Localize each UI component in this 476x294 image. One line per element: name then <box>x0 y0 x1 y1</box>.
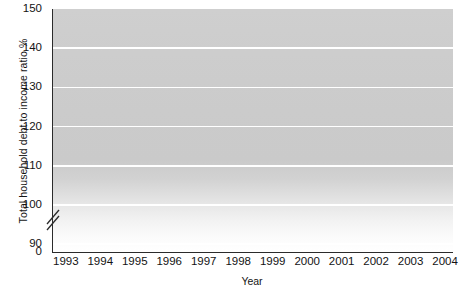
x-tick-label: 2001 <box>329 256 355 268</box>
gridline <box>53 243 453 245</box>
y-axis-tick-labels: 150140130120110100900 <box>4 0 42 294</box>
y-tick-label: 150 <box>8 3 42 15</box>
y-tick-label: 0 <box>8 246 42 258</box>
x-axis-tick-labels: 1993199419951996199719981999200020012002… <box>52 256 452 274</box>
y-tick-label: 110 <box>8 160 42 172</box>
gridline <box>53 126 453 128</box>
x-tick-label: 2000 <box>294 256 320 268</box>
x-tick-label: 2002 <box>363 256 389 268</box>
x-tick-label: 1995 <box>122 256 148 268</box>
plot-background <box>53 9 453 252</box>
y-tick-label: 100 <box>8 199 42 211</box>
x-tick-label: 1993 <box>53 256 79 268</box>
x-tick-label: 2004 <box>432 256 458 268</box>
x-tick-label: 1998 <box>225 256 251 268</box>
y-axis-break-icon <box>44 207 64 233</box>
gridline <box>53 87 453 89</box>
gridline <box>53 165 453 167</box>
x-axis-title: Year <box>52 275 452 287</box>
x-tick-label: 1996 <box>156 256 182 268</box>
chart-figure: Total household debt to income ratio % 1… <box>0 0 476 294</box>
y-tick-label: 130 <box>8 81 42 93</box>
gridline <box>53 47 453 49</box>
gridline <box>53 204 453 206</box>
y-tick-label: 140 <box>8 42 42 54</box>
y-tick-label: 120 <box>8 121 42 133</box>
x-tick-label: 1999 <box>260 256 286 268</box>
plot-area <box>52 9 453 253</box>
x-tick-label: 1994 <box>87 256 113 268</box>
x-tick-label: 1997 <box>191 256 217 268</box>
x-tick-label: 2003 <box>398 256 424 268</box>
